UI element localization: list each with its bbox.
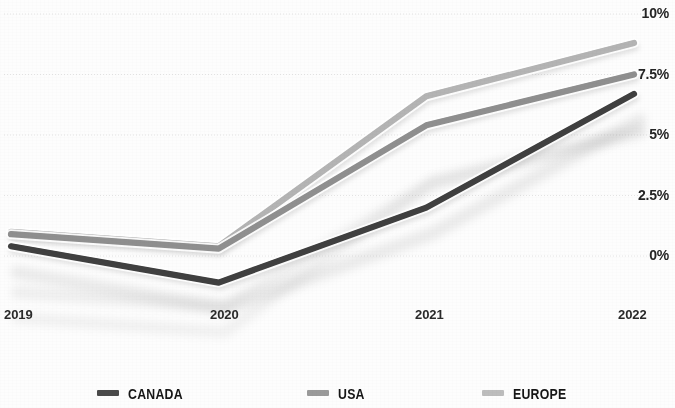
- legend-label: EUROPE: [513, 385, 566, 402]
- legend-label: USA: [338, 385, 365, 402]
- x-axis-tick-label: 2020: [210, 307, 239, 322]
- y-axis-tick-label: 0%: [649, 247, 669, 263]
- legend-item-europe[interactable]: EUROPE: [482, 385, 578, 402]
- line-swatch-icon: [307, 390, 329, 396]
- legend-item-usa[interactable]: USA: [307, 385, 371, 402]
- legend-item-canada[interactable]: CANADA: [97, 385, 195, 402]
- legend-label: CANADA: [128, 385, 183, 402]
- plot-area: [0, 0, 675, 408]
- y-axis-tick-label: 5%: [649, 126, 669, 142]
- line-chart: 10%7.5%5%2.5%0% 2019202020212022 CANADAU…: [0, 0, 675, 408]
- x-axis-tick-label: 2022: [618, 307, 647, 322]
- y-axis-tick-label: 2.5%: [638, 187, 669, 203]
- line-swatch-icon: [482, 390, 504, 396]
- y-axis-tick-label: 10%: [642, 5, 669, 21]
- scan-smudge-bands: [17, 120, 640, 332]
- x-axis-tick-label: 2019: [4, 307, 33, 322]
- x-axis-tick-label: 2021: [415, 307, 444, 322]
- chart-legend: CANADAUSAEUROPE: [0, 378, 675, 408]
- y-axis-tick-label: 7.5%: [638, 66, 669, 82]
- line-swatch-icon: [97, 390, 119, 396]
